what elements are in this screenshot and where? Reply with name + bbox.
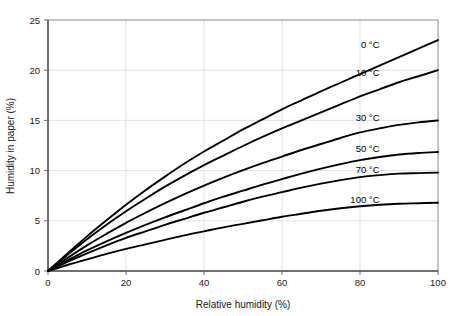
x-tick-label: 80 — [355, 277, 366, 288]
y-tick-label: 25 — [29, 15, 40, 26]
x-axis-title: Relative humidity (%) — [196, 299, 290, 310]
x-tick-label: 20 — [121, 277, 132, 288]
chart-background — [0, 0, 465, 316]
y-tick-label: 15 — [29, 115, 40, 126]
x-tick-label: 40 — [199, 277, 210, 288]
series-label-70-c: 70 °C — [356, 164, 380, 175]
y-tick-label: 10 — [29, 165, 40, 176]
series-label-100-c: 100 °C — [350, 194, 379, 205]
x-tick-label: 0 — [45, 277, 50, 288]
y-tick-label: 20 — [29, 65, 40, 76]
chart-container: 0204060801000510152025 0 °C10 °C30 °C50 … — [0, 0, 465, 316]
y-tick-label: 5 — [35, 215, 40, 226]
humidity-in-paper-chart: 0204060801000510152025 0 °C10 °C30 °C50 … — [0, 0, 465, 316]
series-label-50-c: 50 °C — [356, 143, 380, 154]
series-label-10-c: 10 °C — [356, 67, 380, 78]
series-label-0-c: 0 °C — [361, 39, 380, 50]
x-tick-label: 60 — [277, 277, 288, 288]
x-tick-label: 100 — [430, 277, 446, 288]
y-axis-title: Humidity in paper (%) — [5, 98, 16, 194]
y-tick-label: 0 — [35, 266, 40, 277]
series-label-30-c: 30 °C — [356, 112, 380, 123]
